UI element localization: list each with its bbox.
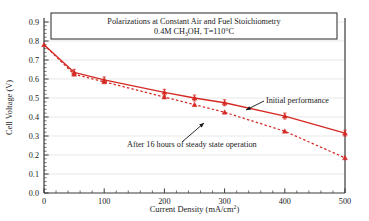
title-box: Polarizations at Constant Air and Fuel S… xyxy=(51,13,337,39)
y-tick-label: 0.8 xyxy=(29,37,39,46)
chart-root: 0100200300400500 0.00.10.20.30.40.50.60.… xyxy=(0,0,369,221)
x-title-suffix: ) xyxy=(236,205,239,214)
y-tick-label: 0.1 xyxy=(29,170,39,179)
x-tick-label: 500 xyxy=(339,197,351,206)
x-title-prefix: Current Density (mA/cm xyxy=(150,205,234,214)
y-tick-label: 0.7 xyxy=(29,56,39,65)
x-tick-label: 0 xyxy=(42,197,46,206)
y-tick-label: 0.4 xyxy=(29,113,39,122)
chart-title: Polarizations at Constant Air and Fuel S… xyxy=(107,17,281,26)
annotation-label-initial-performance: Initial performance xyxy=(266,96,329,105)
y-tick-label: 0.0 xyxy=(29,189,39,198)
y-tick-label: 0.3 xyxy=(29,132,39,141)
x-axis-title: Current Density (mA/cm2) xyxy=(150,204,240,214)
y-tick-label: 0.6 xyxy=(29,75,39,84)
x-tick-label: 400 xyxy=(279,197,291,206)
y-tick-label: 0.9 xyxy=(29,18,39,27)
annotation-label-after-16-hours: After 16 hours of steady state operation xyxy=(127,140,257,149)
x-tick-label: 100 xyxy=(98,197,110,206)
y-tick-label: 0.2 xyxy=(29,151,39,160)
subtitle-suffix: OH, T=110°C xyxy=(188,27,235,36)
polarization-chart: 0100200300400500 0.00.10.20.30.40.50.60.… xyxy=(0,0,369,221)
chart-subtitle: 0.4M CH3OH, T=110°C xyxy=(154,27,234,37)
y-tick-label: 0.5 xyxy=(29,94,39,103)
subtitle-prefix: 0.4M CH xyxy=(154,27,185,36)
y-axis-title: Cell Voltage (V) xyxy=(5,80,14,135)
